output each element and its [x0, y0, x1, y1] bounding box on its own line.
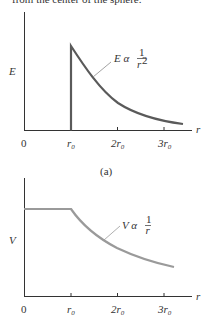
panel-a-x-label: r [196, 123, 201, 135]
panel-b-tick-label-2r0: 2r0 [111, 303, 125, 317]
panel-b-potential: V r V α 1 r 0 r0 2r0 3r0 [9, 178, 201, 317]
panel-b-fraction-denominator: r [146, 224, 151, 236]
figure: E r E α 1 r 2 0 r0 2r0 3r0 (a) V r V α 1 [0, 0, 215, 322]
panel-a-annotation-text: E α [113, 52, 129, 64]
panel-b-tick-label-3r0: 3r0 [157, 303, 172, 317]
panel-b-tick-labels: 0 r0 2r0 3r0 [21, 303, 172, 317]
panel-a-tick-label-r0: r0 [67, 137, 75, 151]
panel-a-annotation: E α 1 r 2 [113, 46, 148, 70]
panel-b-tick-label-r0: r0 [67, 303, 75, 317]
panel-b-leader-line [104, 226, 120, 240]
panel-b-v-curve [24, 209, 174, 267]
panel-a-leader-line [93, 62, 111, 77]
panel-b-y-label: V [9, 234, 17, 246]
panel-b-annotation: V α 1 r [122, 213, 152, 236]
panel-b-annotation-text: V α [122, 219, 137, 231]
panel-b-x-label: r [196, 290, 201, 302]
panel-a-tick-label-2r0: 2r0 [111, 137, 125, 151]
panel-a-tick-label-3r0: 3r0 [157, 137, 172, 151]
panel-a-electric-field: E r E α 1 r 2 0 r0 2r0 3r0 (a) [8, 12, 201, 178]
panel-a-y-label: E [8, 65, 16, 77]
panel-a-tick-label-0: 0 [21, 137, 27, 149]
panel-a-caption: (a) [100, 165, 113, 178]
panel-b-tick-label-0: 0 [21, 303, 27, 315]
panel-a-fraction-exponent: 2 [142, 54, 148, 66]
panel-a-tick-labels: 0 r0 2r0 3r0 [21, 137, 172, 151]
